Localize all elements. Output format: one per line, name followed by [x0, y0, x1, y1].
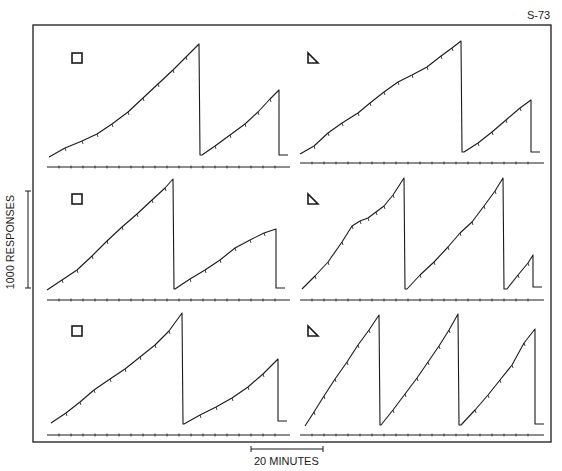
reinforcement-mark	[143, 98, 144, 101]
reinforcement-mark	[92, 256, 93, 259]
reinforcement-mark	[82, 141, 83, 144]
reinforcement-mark	[460, 233, 461, 236]
record-trace-r1c2	[300, 41, 540, 154]
reinforcement-mark	[376, 212, 377, 215]
reinforcement-mark	[258, 112, 259, 115]
reinforcement-mark	[417, 378, 418, 381]
reinforcement-mark	[512, 365, 513, 368]
x-scale-label: 20 MINUTES	[254, 455, 319, 467]
reinforcement-mark	[342, 242, 343, 245]
reinforcement-mark	[405, 394, 406, 397]
reinforcement-mark	[186, 57, 187, 60]
reinforcement-mark	[173, 70, 174, 73]
reinforcement-mark	[441, 56, 442, 59]
triangle-symbol-icon	[308, 194, 318, 204]
record-trace-r3c1	[51, 313, 287, 424]
reinforcement-mark	[488, 395, 489, 398]
reinforcement-mark	[427, 67, 428, 70]
reinforcement-mark	[524, 343, 525, 346]
reinforcement-mark	[352, 226, 353, 229]
reinforcement-mark	[250, 240, 251, 243]
reinforcement-mark	[110, 379, 111, 382]
reinforcement-mark	[235, 248, 236, 251]
reinforcement-mark	[520, 108, 521, 111]
reinforcement-mark	[205, 270, 206, 273]
reinforcement-mark	[368, 218, 369, 221]
reinforcement-mark	[358, 113, 359, 116]
reinforcement-mark	[97, 134, 98, 137]
reinforcement-mark	[528, 263, 529, 266]
reinforcement-mark	[434, 262, 435, 265]
reinforcement-mark	[200, 415, 201, 418]
reinforcement-mark	[220, 260, 221, 263]
reinforcement-mark	[122, 227, 123, 230]
figure-id-label: S-73	[527, 9, 550, 21]
reinforcement-mark	[314, 146, 315, 149]
record-trace-r2c2	[302, 178, 542, 289]
reinforcement-mark	[263, 374, 264, 377]
reinforcement-mark	[165, 188, 166, 191]
reinforcement-mark	[452, 48, 453, 51]
reinforcement-mark	[428, 362, 429, 365]
x-scale-bar	[251, 446, 323, 452]
reinforcement-mark	[128, 112, 129, 115]
reinforcement-mark	[245, 124, 246, 127]
reinforcement-mark	[328, 262, 329, 265]
y-scale-label: 1000 RESPONSES	[4, 182, 16, 302]
reinforcement-mark	[500, 380, 501, 383]
reinforcement-mark	[384, 92, 385, 95]
reinforcement-mark	[270, 99, 271, 102]
record-trace-r1c1	[49, 44, 288, 157]
reinforcement-mark	[506, 120, 507, 123]
reinforcement-mark	[77, 270, 78, 273]
y-scale-bar	[25, 191, 31, 288]
reinforcement-mark	[342, 123, 343, 126]
square-symbol-icon	[72, 326, 82, 336]
reinforcement-mark	[328, 133, 329, 136]
reinforcement-mark	[190, 279, 191, 282]
event-lines	[47, 162, 544, 437]
reinforcement-mark	[448, 247, 449, 250]
reinforcement-mark	[158, 84, 159, 87]
reinforcement-mark	[94, 390, 95, 393]
reinforcement-mark	[393, 410, 394, 413]
reinforcement-mark	[80, 402, 81, 405]
cumulative-record-figure	[0, 0, 562, 471]
reinforcement-mark	[232, 398, 233, 401]
reinforcement-mark	[398, 82, 399, 85]
reinforcement-mark	[347, 362, 348, 365]
reinforcement-mark	[248, 387, 249, 390]
reinforcement-mark	[216, 407, 217, 410]
reinforcement-mark	[449, 330, 450, 333]
reinforcement-mark	[484, 206, 485, 209]
reinforcement-mark	[472, 222, 473, 225]
reinforcement-mark	[518, 275, 519, 278]
triangle-symbol-icon	[308, 326, 318, 336]
reinforcement-mark	[369, 330, 370, 333]
record-trace-r3c2	[305, 314, 544, 426]
reinforcement-mark	[66, 413, 67, 416]
reinforcement-mark	[315, 276, 316, 279]
reinforcement-mark	[107, 241, 108, 244]
reinforcement-mark	[360, 221, 361, 224]
reinforcement-mark	[495, 191, 496, 194]
reinforcement-mark	[152, 200, 153, 203]
reinforcement-mark	[478, 143, 479, 146]
record-panels	[47, 41, 544, 426]
figure-frame	[33, 25, 551, 442]
reinforcement-mark	[155, 345, 156, 348]
reinforcement-mark	[358, 345, 359, 348]
square-symbol-icon	[72, 53, 82, 63]
reinforcement-mark	[62, 280, 63, 283]
reinforcement-mark	[384, 206, 385, 209]
reinforcement-mark	[324, 396, 325, 399]
reinforcement-mark	[112, 124, 113, 127]
reinforcement-mark	[125, 369, 126, 372]
reinforcement-mark	[137, 214, 138, 217]
reinforcement-mark	[412, 75, 413, 78]
reinforcement-mark	[65, 148, 66, 151]
reinforcement-mark	[492, 132, 493, 135]
reinforcement-mark	[264, 233, 265, 236]
reinforcement-mark	[370, 103, 371, 106]
reinforcement-mark	[475, 410, 476, 413]
